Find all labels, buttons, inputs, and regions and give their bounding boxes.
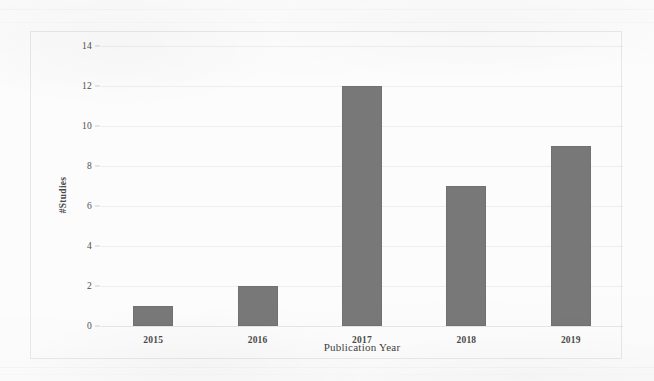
scan-streak [0,9,654,10]
y-tick-label: 6 [87,201,92,211]
y-tick-label: 12 [82,81,92,91]
chart-plot-border: #Studies 1412108642020152016201720182019… [30,31,622,359]
y-tick-label: 0 [87,321,92,331]
scan-streak [0,22,654,23]
bar-2017[interactable] [342,86,382,326]
y-axis-title: #Studies [58,177,68,214]
y-tick-label: 2 [87,281,92,291]
y-tick-label: 8 [87,161,92,171]
y-tick-label: 10 [82,121,92,131]
bar-2016[interactable] [238,286,278,326]
bar-2015[interactable] [133,306,173,326]
bar-2019[interactable] [551,146,591,326]
y-tick-mark [95,166,100,167]
y-tick-mark [95,246,100,247]
gridline [101,46,623,47]
y-tick-mark [95,286,100,287]
y-tick-mark [95,86,100,87]
scan-streak [0,367,654,368]
y-tick-mark [95,206,100,207]
x-axis-title: Publication Year [101,341,623,353]
plot-area: 1412108642020152016201720182019 [101,46,623,326]
scan-streak [0,374,654,375]
y-tick-mark [95,126,100,127]
y-tick-mark [95,326,100,327]
bar-2018[interactable] [446,186,486,326]
scanned-figure-page: #Studies 1412108642020152016201720182019… [0,0,654,381]
y-tick-label: 14 [82,41,92,51]
y-tick-label: 4 [87,241,92,251]
gridline [101,326,623,327]
y-tick-mark [95,46,100,47]
